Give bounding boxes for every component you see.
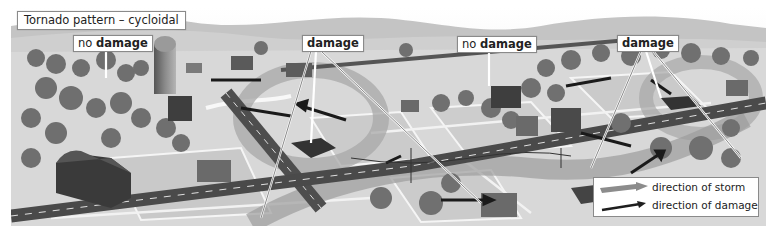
figure-title-text: Tornado pattern – cycloidal bbox=[24, 13, 179, 27]
legend-label-storm: direction of storm bbox=[652, 181, 745, 193]
legend: direction of storm direction of damage bbox=[593, 177, 759, 217]
label-text: damage bbox=[622, 36, 674, 50]
label-damage-center: damage bbox=[302, 35, 364, 52]
label-prefix: no bbox=[78, 36, 96, 50]
label-text: damage bbox=[480, 37, 532, 51]
legend-item-storm: direction of storm bbox=[594, 179, 758, 197]
label-text: damage bbox=[96, 36, 148, 50]
label-no-damage-right: no damage bbox=[457, 36, 537, 53]
label-damage-right: damage bbox=[617, 35, 679, 52]
thin-black-arrow-icon bbox=[600, 200, 648, 212]
wide-gray-arrow-icon bbox=[600, 182, 648, 194]
legend-label-damage: direction of damage bbox=[652, 199, 758, 211]
label-no-damage-left: no damage bbox=[73, 35, 153, 52]
label-text: damage bbox=[307, 36, 359, 50]
legend-item-damage: direction of damage bbox=[594, 197, 758, 215]
label-prefix: no bbox=[462, 37, 480, 51]
figure-title: Tornado pattern – cycloidal bbox=[17, 11, 186, 30]
